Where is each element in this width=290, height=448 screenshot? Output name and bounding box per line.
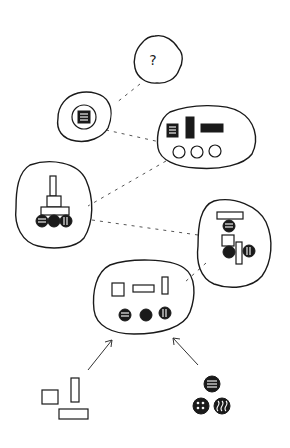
middle-block [222,235,234,246]
wavy-block-icon [201,124,223,132]
arrow-right [173,338,198,365]
empty-circle-icon [173,146,185,158]
input-arrows [88,338,198,370]
input-balls [193,376,230,414]
node-component-set [158,106,256,169]
input-tall-bar [71,378,79,402]
question-mark: ? [149,52,156,68]
dotted-ball-icon [140,309,152,321]
side-bar [236,242,242,264]
tower-base-plank [41,207,69,215]
dotted-block-icon [186,117,194,138]
dotted-ball-icon [193,398,209,414]
input-square [42,390,58,404]
input-wide-plank [59,409,88,419]
input-rectangles [42,378,88,419]
wide-plank [133,285,154,292]
diagram-canvas: ? [0,0,290,448]
wavy-ball-icon [159,307,171,319]
tower-top-bar [50,176,56,196]
empty-circle-icon [209,145,221,157]
node-combined-pool [94,260,194,334]
wavy-ball-icon [60,215,72,227]
empty-circle-icon [191,146,203,158]
arrow-left [88,340,112,370]
dashed-connectors [88,84,206,282]
striped-ball-icon [36,215,48,227]
dotted-ball-icon [48,215,60,227]
node-single-module [58,92,111,141]
wavy-ball-icon [243,245,255,257]
dotted-ball-icon [223,246,235,258]
square-block [112,283,124,296]
striped-ball-icon [223,220,235,232]
tower-middle-block [47,196,61,207]
node-assembled-mix [198,200,271,288]
striped-ball-icon [119,309,131,321]
top-plank [217,212,243,219]
tall-bar [162,277,168,294]
node-stacked-tower [16,162,92,248]
node-unknown: ? [134,36,182,83]
